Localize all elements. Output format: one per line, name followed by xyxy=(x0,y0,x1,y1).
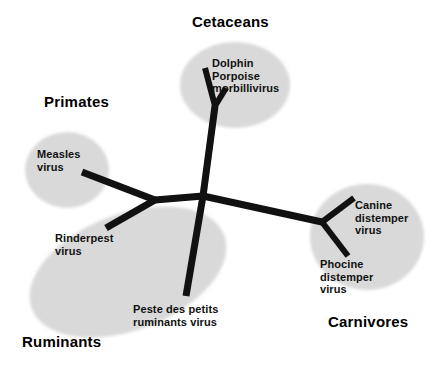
phylogenetic-tree-figure: Cetaceans Primates Ruminants Carnivores … xyxy=(0,0,442,366)
taxon-label-peste-des-petits-ruminants-virus: Peste des petits ruminants virus xyxy=(133,303,218,328)
tree-graphic xyxy=(0,0,442,366)
group-label-cetaceans: Cetaceans xyxy=(192,13,269,30)
taxon-label-measles-virus: Measles virus xyxy=(37,148,81,173)
branch-carnivore-stem xyxy=(203,196,322,222)
group-label-carnivores: Carnivores xyxy=(328,313,408,330)
taxon-label-phocine-distemper-virus: Phocine distemper virus xyxy=(320,258,373,296)
taxon-label-dolphin-porpoise-morbillivirus: Dolphin Porpoise morbillivirus xyxy=(212,57,279,95)
taxon-label-rinderpest-virus: Rinderpest virus xyxy=(55,232,113,257)
branch-central-trunk xyxy=(155,196,203,200)
group-label-primates: Primates xyxy=(44,93,109,110)
taxon-label-canine-distemper-virus: Canine distemper virus xyxy=(355,199,408,237)
group-label-ruminants: Ruminants xyxy=(22,333,101,350)
